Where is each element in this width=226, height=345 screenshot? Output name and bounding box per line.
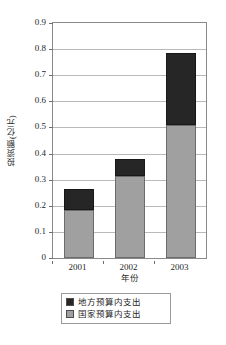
bar-segment [166, 125, 196, 258]
y-tick-mark [49, 75, 53, 76]
y-tick-mark [49, 258, 53, 259]
y-tick-label: 0.1 [35, 226, 46, 235]
y-tick-label: 0.2 [35, 200, 46, 209]
legend-label: 国家预算内支出 [78, 310, 141, 319]
gridline [53, 49, 206, 50]
y-tick-mark [49, 49, 53, 50]
chart-legend: 地方预算内支出国家预算内支出 [61, 293, 171, 324]
y-tick-label: 0.8 [35, 44, 46, 53]
y-tick-label: 0.6 [35, 96, 46, 105]
x-tick-label: 2003 [171, 263, 189, 272]
y-tick-label: 0.5 [35, 122, 46, 131]
bar-segment [115, 176, 145, 258]
y-tick-label: 0.7 [35, 70, 46, 79]
y-tick-mark [49, 127, 53, 128]
x-tick-label: 2002 [120, 263, 138, 272]
y-tick-mark [49, 180, 53, 181]
legend-item: 国家预算内支出 [66, 308, 166, 320]
legend-swatch-icon [66, 310, 74, 318]
legend-label: 地方预算内支出 [78, 298, 141, 307]
x-tick-label: 2001 [69, 263, 87, 272]
y-axis-title: 投资额(亿元) [4, 22, 20, 259]
bar-segment [115, 159, 145, 176]
y-tick-label: 0.9 [35, 18, 46, 27]
x-tick-mark [52, 261, 53, 264]
legend-swatch-icon [66, 298, 74, 306]
y-tick-label: 0 [42, 253, 47, 262]
plot-area [52, 22, 207, 259]
stacked-bar-chart: 投资额(亿元) 0.90.80.70.60.50.40.30.20.10 200… [0, 0, 226, 345]
x-tick-mark [154, 261, 155, 264]
x-axis-title: 年份 [52, 274, 207, 283]
bar-segment [64, 210, 94, 258]
y-tick-label: 0.4 [35, 148, 46, 157]
y-axis-tick-labels: 0.90.80.70.60.50.40.30.20.10 [20, 22, 49, 259]
bar-segment [166, 53, 196, 125]
bar-segment [64, 189, 94, 210]
y-tick-mark [49, 101, 53, 102]
bar-group [166, 53, 196, 258]
bar-group [115, 159, 145, 258]
y-tick-mark [49, 206, 53, 207]
y-tick-label: 0.3 [35, 174, 46, 183]
y-tick-mark [49, 23, 53, 24]
x-tick-mark [103, 261, 104, 264]
y-tick-mark [49, 154, 53, 155]
legend-item: 地方预算内支出 [66, 296, 166, 308]
bar-group [64, 189, 94, 258]
y-tick-mark [49, 232, 53, 233]
